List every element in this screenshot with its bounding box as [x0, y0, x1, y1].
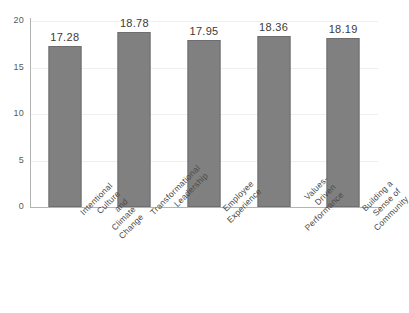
y-tick-label-5: 5 [0, 155, 24, 165]
bar-values-driven-performance[interactable] [257, 36, 290, 207]
bar-slot-1: 18.78 [100, 21, 170, 207]
bar-slot-0: 17.28 [30, 21, 100, 207]
bar-intentional-culture-and-climate-change[interactable] [48, 46, 81, 207]
bar-value-label-1: 18.78 [120, 17, 149, 29]
bar-value-label-2: 17.95 [189, 25, 218, 37]
y-tick-label-10: 10 [0, 108, 24, 118]
bar-chart: 20 15 10 5 0 17.28 18.78 17.95 18.36 18.… [0, 0, 409, 313]
bar-value-label-0: 17.28 [50, 31, 79, 43]
bar-transformational-leadership[interactable] [118, 32, 151, 207]
y-tick-label-0: 0 [0, 201, 24, 211]
x-axis-labels: Intentional Culture and Climate Change T… [30, 210, 378, 313]
bar-value-label-4: 18.19 [329, 23, 358, 35]
y-tick-label-20: 20 [0, 15, 24, 25]
bar-value-label-3: 18.36 [259, 21, 288, 33]
y-tick-label-15: 15 [0, 62, 24, 72]
